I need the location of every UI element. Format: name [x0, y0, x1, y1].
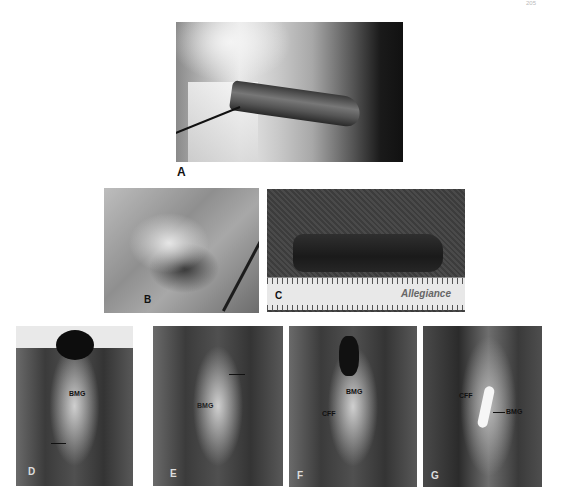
- panel-g-label: G: [431, 470, 439, 481]
- panel-b-label: B: [144, 294, 151, 305]
- page-number: 205: [526, 0, 536, 6]
- bmg-annotation: BMG: [506, 408, 522, 415]
- meatus: [56, 330, 94, 360]
- panel-f-image: BMG CFF F: [289, 326, 417, 487]
- cff-annotation: CFF: [322, 410, 336, 417]
- graft-edge: [477, 385, 496, 428]
- bmg-annotation: BMG: [346, 388, 362, 395]
- panel-d-label: D: [28, 466, 35, 477]
- ruler-ticks-bottom: [267, 305, 465, 310]
- panel-e-label: E: [170, 468, 177, 479]
- panel-c-image: Allegiance C: [267, 189, 465, 312]
- panel-e-image: BMG E: [153, 326, 283, 486]
- panel-c-label: C: [275, 290, 282, 301]
- ruler-brand: Allegiance: [401, 288, 451, 299]
- meatus: [339, 336, 359, 376]
- arrow: [229, 374, 245, 375]
- graft-specimen: [293, 234, 443, 272]
- bmg-annotation: BMG: [197, 402, 213, 409]
- panel-a-label: A: [177, 165, 186, 179]
- cff-annotation: CFF: [459, 392, 473, 399]
- arrow: [51, 443, 66, 444]
- panel-d-image: BMG D: [16, 326, 133, 486]
- ruler-ticks: [267, 278, 465, 284]
- arrow: [493, 412, 505, 413]
- panel-b-image: B: [104, 188, 259, 313]
- bmg-annotation: BMG: [69, 390, 85, 397]
- panel-f-label: F: [297, 470, 303, 481]
- forceps: [222, 204, 259, 311]
- panel-a-image: [176, 22, 403, 162]
- ruler: Allegiance C: [267, 277, 465, 310]
- panel-g-image: CFF BMG G: [423, 326, 542, 487]
